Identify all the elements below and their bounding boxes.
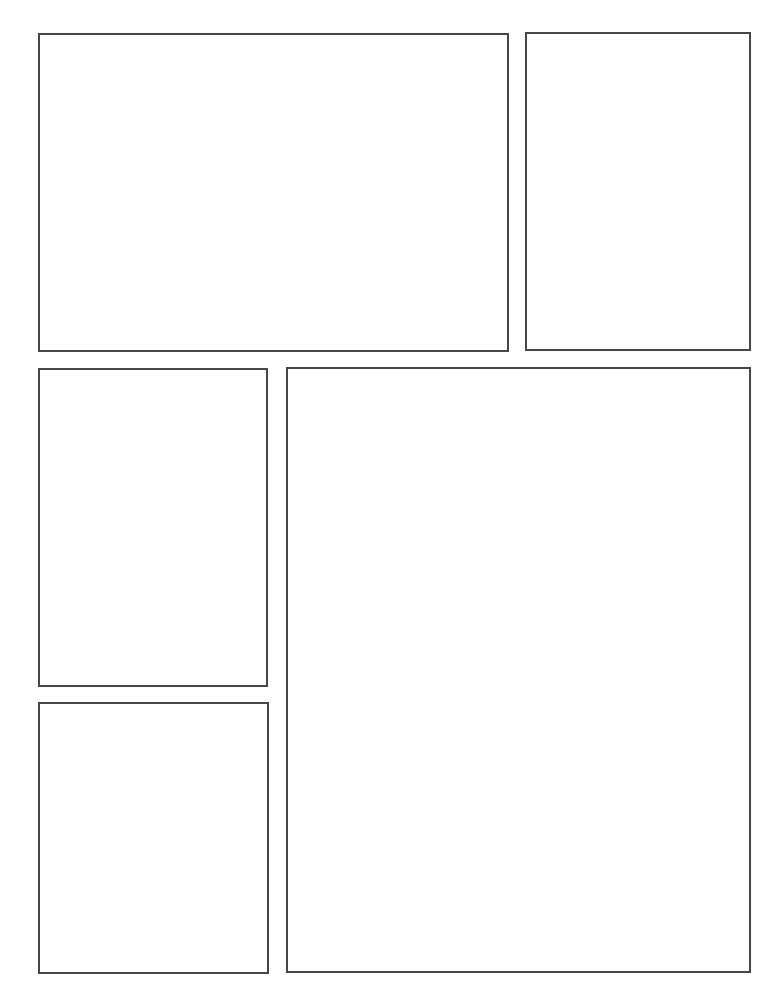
panel-top-left-wide xyxy=(38,33,509,352)
panel-top-right xyxy=(525,32,751,351)
panel-bottom-left xyxy=(38,702,269,974)
panel-middle-left xyxy=(38,368,268,687)
panel-large-right xyxy=(286,367,751,973)
comic-page xyxy=(0,0,763,997)
